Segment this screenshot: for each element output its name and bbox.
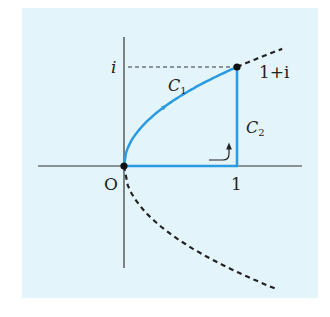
endpoint-point [233,63,240,70]
imag-i-label: i [111,57,116,77]
c2-label: C2 [246,118,265,138]
origin-label: O [104,174,118,194]
path-c2 [124,67,237,166]
c2-direction-arrow-icon [209,146,229,160]
parabola-dashed-lower [124,166,277,289]
complex-plane-diagram: O 1 i 1+i C1 C2 [0,0,330,317]
path-c1 [124,67,237,166]
endpoint-label: 1+i [259,62,290,82]
real-one-label: 1 [231,174,242,194]
c1-label: C1 [168,76,187,96]
origin-point [120,162,127,169]
